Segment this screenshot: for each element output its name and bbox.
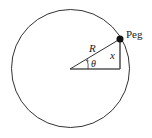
peg-circle-diagram: Peg R θ x <box>0 0 152 138</box>
peg-dot <box>117 36 124 43</box>
peg-label: Peg <box>126 28 143 40</box>
angle-label: θ <box>91 58 96 69</box>
radius-label: R <box>88 42 96 54</box>
height-label: x <box>109 49 115 61</box>
